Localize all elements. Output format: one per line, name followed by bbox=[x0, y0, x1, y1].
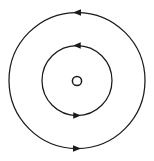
outer-orbit-arrow-top-icon bbox=[73, 9, 81, 16]
inner-orbit-circle bbox=[42, 46, 112, 116]
atom-orbit-diagram: Diagram of an atom: a small circle at th… bbox=[0, 0, 154, 161]
outer-orbit-arrow-bottom-icon bbox=[73, 145, 81, 152]
orbit-diagram-canvas bbox=[0, 0, 154, 161]
inner-orbit-arrow-bottom-icon bbox=[73, 112, 81, 118]
inner-orbit-arrow-top-icon bbox=[73, 42, 81, 48]
nucleus-circle bbox=[72, 76, 81, 85]
outer-orbit-circle bbox=[9, 13, 145, 149]
